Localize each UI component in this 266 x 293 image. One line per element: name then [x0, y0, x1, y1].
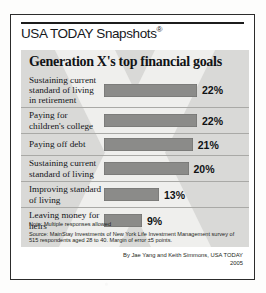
masthead-title-text: USA TODAY Snapshots: [21, 26, 156, 41]
bar-area: 13%: [104, 182, 249, 207]
chart-footnotes: Note: Multiple responses allowed Source:…: [29, 221, 243, 244]
bar-row: Paying off debt21%: [21, 133, 249, 155]
scanned-page: USA TODAY Snapshots® Generation X's top …: [0, 0, 266, 293]
bar-value: 21%: [198, 139, 219, 151]
bar-label: Sustaining current standard of living: [21, 158, 104, 178]
bar-chart-rows: Sustaining current standard of living in…: [21, 73, 249, 233]
snapshot-frame-inner: USA TODAY Snapshots® Generation X's top …: [14, 18, 251, 276]
masthead: USA TODAY Snapshots®: [21, 22, 244, 46]
bar-row: Sustaining current standard of living20%: [21, 155, 249, 181]
bar-area: 20%: [104, 156, 249, 181]
registered-mark-icon: ®: [156, 25, 162, 34]
chart-source: Source: MainStay Investments of New York…: [29, 231, 243, 244]
masthead-title: USA TODAY Snapshots®: [21, 25, 162, 41]
chart-title: Generation X's top financial goals: [29, 54, 243, 70]
chart-panel: Generation X's top financial goals Susta…: [21, 50, 249, 247]
byline-credit: By Jae Yang and Keith Simmons, USA TODAY: [123, 251, 243, 259]
bar-row: Sustaining current standard of living in…: [21, 73, 249, 107]
bar-value: 13%: [164, 189, 185, 201]
bar-area: 22%: [104, 108, 249, 133]
bar: [104, 114, 197, 127]
bar: [104, 138, 193, 151]
bar-row: Paying for children's college22%: [21, 107, 249, 133]
bar-row: Improving standard of living13%: [21, 181, 249, 207]
byline-year: 2005: [123, 259, 243, 267]
byline: By Jae Yang and Keith Simmons, USA TODAY…: [123, 251, 243, 267]
bar-label: Improving standard of living: [21, 184, 104, 204]
bar: [104, 188, 159, 201]
bar-value: 20%: [194, 163, 215, 175]
chart-note: Note: Multiple responses allowed: [29, 221, 243, 228]
bar-area: 21%: [104, 134, 249, 155]
bar: [104, 84, 197, 97]
bar-label: Paying off debt: [21, 139, 104, 149]
bar: [104, 162, 189, 175]
bar-area: 22%: [104, 73, 249, 107]
bar-value: 22%: [202, 84, 223, 96]
snapshot-frame: USA TODAY Snapshots® Generation X's top …: [10, 14, 255, 280]
bar-label: Sustaining current standard of living in…: [21, 75, 104, 106]
masthead-rule: [21, 22, 244, 24]
bar-label: Paying for children's college: [21, 110, 104, 130]
bar-value: 22%: [202, 115, 223, 127]
